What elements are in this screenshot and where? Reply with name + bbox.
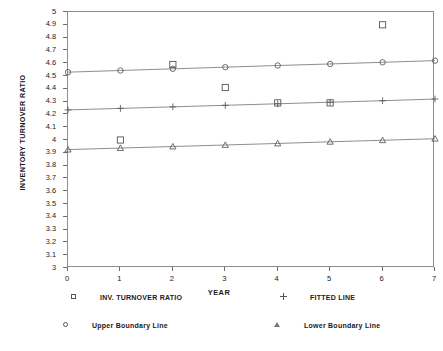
x-tick-mark <box>382 267 383 271</box>
y-tick-label: 3 <box>28 263 56 272</box>
y-tick-label: 3.8 <box>28 160 56 169</box>
data-point-plus <box>117 105 124 112</box>
data-point-plus <box>169 103 176 110</box>
plot-svg <box>68 12 435 268</box>
x-tick-mark <box>329 267 330 271</box>
data-point-plus <box>65 107 72 114</box>
legend-item[interactable]: FITTED LINE <box>278 292 355 302</box>
y-tick-label: 4.6 <box>28 58 56 67</box>
x-tick-label: 6 <box>372 274 392 283</box>
data-point-square <box>117 137 123 143</box>
legend-label: INV. TURNOVER RATIO <box>100 294 182 301</box>
y-tick-label: 4.9 <box>28 19 56 28</box>
x-tick-mark <box>119 267 120 271</box>
y-tick-label: 3.6 <box>28 186 56 195</box>
y-tick-label: 4.5 <box>28 71 56 80</box>
legend-marker-triangle-icon <box>272 320 286 330</box>
x-tick-label: 0 <box>57 274 77 283</box>
x-tick-label: 7 <box>424 274 443 283</box>
y-tick-label: 3.9 <box>28 147 56 156</box>
data-point-square <box>222 84 228 90</box>
legend-marker-plus-icon <box>278 292 292 302</box>
chart-legend: INV. TURNOVER RATIOFITTED LINEUpper Boun… <box>0 292 438 351</box>
x-tick-mark <box>67 267 68 271</box>
data-point-plus <box>432 96 439 103</box>
y-tick-label: 5 <box>28 7 56 16</box>
series-line-triangle <box>68 139 435 150</box>
x-tick-label: 1 <box>109 274 129 283</box>
y-tick-label: 3.4 <box>28 211 56 220</box>
y-tick-label: 4.2 <box>28 109 56 118</box>
x-tick-label: 2 <box>162 274 182 283</box>
x-tick-label: 3 <box>214 274 234 283</box>
legend-item[interactable]: Upper Boundary Line <box>60 320 168 330</box>
y-tick-label: 4.3 <box>28 96 56 105</box>
x-tick-label: 4 <box>267 274 287 283</box>
data-point-plus <box>379 97 386 104</box>
y-axis-title: INVENTORY TURNOVER RATIO <box>18 53 27 213</box>
legend-marker-circle-icon <box>60 320 74 330</box>
x-tick-label: 5 <box>319 274 339 283</box>
y-tick-label: 4 <box>28 135 56 144</box>
y-tick-label: 4.1 <box>28 122 56 131</box>
y-tick-label: 4.7 <box>28 45 56 54</box>
x-tick-mark <box>277 267 278 271</box>
y-tick-label: 3.7 <box>28 173 56 182</box>
y-tick-label: 3.5 <box>28 199 56 208</box>
legend-label: Upper Boundary Line <box>92 322 168 329</box>
x-tick-mark <box>172 267 173 271</box>
y-tick-label: 4.8 <box>28 32 56 41</box>
legend-item[interactable]: Lower Boundary Line <box>272 320 380 330</box>
x-tick-mark <box>434 267 435 271</box>
legend-marker-square-icon <box>68 292 82 302</box>
data-point-square <box>379 22 385 28</box>
legend-item[interactable]: INV. TURNOVER RATIO <box>68 292 182 302</box>
y-tick-label: 3.1 <box>28 250 56 259</box>
plot-area <box>67 11 434 267</box>
legend-label: Lower Boundary Line <box>304 322 380 329</box>
x-tick-mark <box>224 267 225 271</box>
y-tick-label: 3.3 <box>28 224 56 233</box>
legend-label: FITTED LINE <box>310 294 355 301</box>
y-tick-label: 3.2 <box>28 237 56 246</box>
data-point-plus <box>222 102 229 109</box>
y-tick-label: 4.4 <box>28 83 56 92</box>
